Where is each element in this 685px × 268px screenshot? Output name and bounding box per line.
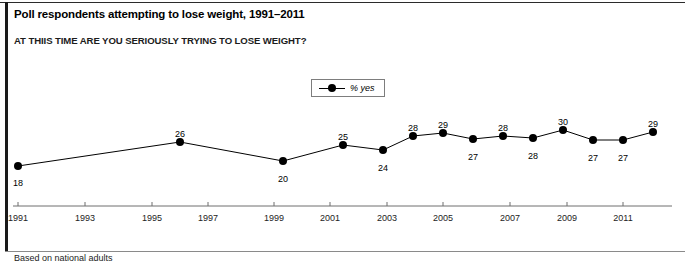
data-point-marker [649, 128, 657, 136]
data-point-marker [589, 136, 597, 144]
x-axis [13, 202, 672, 206]
data-point-marker [469, 135, 477, 143]
data-point-marker [339, 141, 347, 149]
data-point-label: 26 [175, 129, 185, 139]
data-point-label: 28 [498, 123, 508, 133]
x-axis-tick-label: 2011 [613, 213, 632, 223]
x-axis-tick-label: 1997 [198, 213, 218, 223]
data-point-marker [559, 126, 567, 134]
data-point-marker [14, 162, 22, 170]
data-point-label: 27 [468, 152, 478, 162]
chart-subtitle: AT THIIS TIME ARE YOU SERIOUSLY TRYING T… [14, 35, 306, 46]
data-point-label: 18 [13, 178, 23, 188]
data-point-label: 25 [338, 132, 348, 142]
x-axis-tick-label: 2001 [320, 213, 340, 223]
x-axis-tick-label: 2009 [557, 213, 577, 223]
chart-title: Poll respondents attempting to lose weig… [14, 8, 305, 20]
data-point-label: 28 [528, 151, 538, 161]
data-point-marker [279, 157, 287, 165]
data-point-label: 20 [278, 174, 288, 184]
x-axis-tick-label: 2005 [433, 213, 453, 223]
x-axis-tick-label: 1995 [142, 213, 162, 223]
data-point-marker [439, 129, 447, 137]
data-point-marker [379, 146, 387, 154]
data-point-label: 29 [648, 119, 658, 129]
chart-footnote: Based on national adults [14, 253, 113, 263]
x-axis-tick-label: 2007 [500, 213, 520, 223]
legend-label: % yes [350, 83, 375, 93]
x-axis-tick-label: 1999 [264, 213, 284, 223]
data-point-label: 27 [588, 153, 598, 163]
series-yes [14, 126, 657, 170]
x-axis-tick-label: 1991 [8, 213, 28, 223]
chart-figure: Poll respondents attempting to lose weig… [0, 0, 685, 268]
data-point-marker [176, 138, 184, 146]
data-point-marker [529, 134, 537, 142]
series-line [18, 130, 653, 166]
chart-legend: % yes [311, 79, 385, 97]
frame-bottom-border [5, 251, 685, 252]
data-point-label: 28 [408, 123, 418, 133]
data-point-label: 29 [438, 120, 448, 130]
data-point-marker [619, 136, 627, 144]
data-point-marker [499, 132, 507, 140]
data-point-label: 27 [618, 153, 628, 163]
x-axis-tick-label: 1993 [75, 213, 95, 223]
data-point-marker [409, 132, 417, 140]
legend-line-dot-icon [319, 84, 345, 93]
data-point-label: 24 [378, 163, 388, 173]
data-point-label: 30 [558, 117, 568, 127]
frame-top-border [0, 2, 685, 3]
x-axis-tick-label: 2003 [377, 213, 397, 223]
